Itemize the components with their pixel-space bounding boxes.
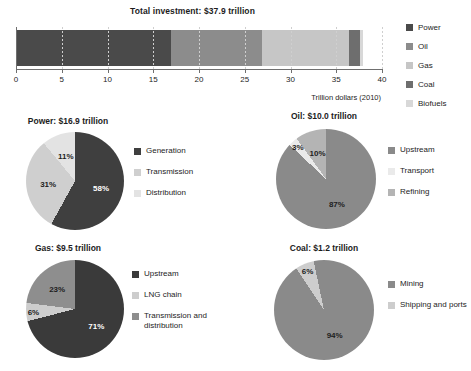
oil-pie <box>276 129 376 229</box>
bar-segment-power <box>16 30 171 66</box>
x-tick <box>153 69 154 73</box>
x-axis-label: Trillion dollars (2010) <box>0 93 381 102</box>
x-tick-label: 35 <box>332 75 341 84</box>
legend-item-coal[interactable]: Coal <box>406 75 461 94</box>
legend-item-oil[interactable]: Oil <box>406 37 461 56</box>
legend-item-refining[interactable]: Refining <box>388 187 468 197</box>
legend-label: Upstream <box>144 269 179 279</box>
legend-item-transmission[interactable]: Transmission <box>134 167 229 177</box>
legend-label: Refining <box>400 187 429 197</box>
x-tick-label: 15 <box>149 75 158 84</box>
oil-pie-title: Oil: $10.0 trillion <box>264 111 384 121</box>
coal-pie-title: Coal: $1.2 trillion <box>264 243 384 253</box>
pie-slice-label: 94% <box>327 331 343 340</box>
gridline <box>153 27 154 69</box>
legend-label: Distribution <box>146 188 186 198</box>
legend-swatch-icon <box>132 313 139 320</box>
legend-item-transmission-and-distribution[interactable]: Transmission and distribution <box>132 311 230 331</box>
gridline <box>108 27 109 69</box>
legend-label: Mining <box>400 279 424 289</box>
legend-item-upstream[interactable]: Upstream <box>132 269 230 279</box>
legend-label: LNG chain <box>144 290 182 300</box>
x-tick <box>108 69 109 73</box>
legend-label: Transmission and distribution <box>144 311 230 331</box>
pie-slice-label: 58% <box>93 183 109 192</box>
legend-swatch-icon <box>406 81 413 88</box>
pie-slice-label: 11% <box>58 151 74 160</box>
legend-item-gas[interactable]: Gas <box>406 56 461 75</box>
legend-item-generation[interactable]: Generation <box>134 146 229 156</box>
gas-pie <box>26 260 124 358</box>
coal-pie-panel: Coal: $1.2 trillion MiningShipping and p… <box>248 243 461 371</box>
legend-item-lng-chain[interactable]: LNG chain <box>132 290 230 300</box>
legend-label: Coal <box>418 80 434 89</box>
oil-pie-panel: Oil: $10.0 trillion UpstreamTransportRef… <box>248 111 461 238</box>
power-pie-legend: GenerationTransmissionDistribution <box>134 146 229 209</box>
bar-legend: PowerOilGasCoalBiofuels <box>406 18 461 113</box>
x-tick-label: 25 <box>240 75 249 84</box>
bar-segment-oil <box>171 30 263 66</box>
legend-item-upstream[interactable]: Upstream <box>388 145 468 155</box>
bar-chart-title: Total investment: $37.9 trillion <box>0 6 385 16</box>
x-tick <box>291 69 292 73</box>
pie-slice-label: 10% <box>309 148 325 157</box>
legend-swatch-icon <box>406 100 413 107</box>
x-tick-label: 5 <box>60 75 64 84</box>
legend-swatch-icon <box>134 169 141 176</box>
legend-item-power[interactable]: Power <box>406 18 461 37</box>
x-tick <box>16 69 17 73</box>
legend-item-distribution[interactable]: Distribution <box>134 188 229 198</box>
power-pie-title: Power: $16.9 trillion <box>8 116 128 126</box>
gridline <box>291 27 292 69</box>
gridline <box>245 27 246 69</box>
x-tick-label: 0 <box>14 75 18 84</box>
legend-swatch-icon <box>388 168 395 175</box>
x-tick <box>245 69 246 73</box>
legend-item-shipping-and-ports[interactable]: Shipping and ports <box>388 300 471 310</box>
bar-segment-biofuels <box>360 30 363 66</box>
legend-label: Upstream <box>400 145 435 155</box>
legend-item-transport[interactable]: Transport <box>388 166 468 176</box>
x-tick-label: 40 <box>378 75 387 84</box>
legend-swatch-icon <box>388 281 395 288</box>
gridline <box>62 27 63 69</box>
gas-pie-panel: Gas: $9.5 trillion UpstreamLNG chainTran… <box>4 243 230 371</box>
legend-swatch-icon <box>134 190 141 197</box>
x-tick <box>199 69 200 73</box>
legend-swatch-icon <box>406 24 413 31</box>
coal-pie-legend: MiningShipping and ports <box>388 279 471 321</box>
legend-swatch-icon <box>388 189 395 196</box>
gridline <box>382 27 383 69</box>
gridline <box>336 27 337 69</box>
legend-label: Generation <box>146 146 186 156</box>
pie-slice-label: 6% <box>28 307 40 316</box>
legend-label: Transmission <box>146 167 193 177</box>
x-tick-label: 20 <box>195 75 204 84</box>
oil-pie-legend: UpstreamTransportRefining <box>388 145 468 208</box>
pie-slice-label: 87% <box>329 200 345 209</box>
legend-label: Oil <box>418 42 428 51</box>
x-tick <box>382 69 383 73</box>
pie-slice-label: 23% <box>49 284 65 293</box>
x-tick-label: 10 <box>103 75 112 84</box>
gas-pie-legend: UpstreamLNG chainTransmission and distri… <box>132 269 230 342</box>
legend-label: Transport <box>400 166 434 176</box>
stacked-bar-panel: Total investment: $37.9 trillion Trillio… <box>0 0 461 112</box>
legend-swatch-icon <box>132 292 139 299</box>
legend-item-mining[interactable]: Mining <box>388 279 471 289</box>
pie-slice-label: 3% <box>292 143 304 152</box>
legend-swatch-icon <box>388 147 395 154</box>
legend-label: Shipping and ports <box>400 300 467 310</box>
legend-swatch-icon <box>134 148 141 155</box>
coal-pie <box>274 260 374 360</box>
x-tick <box>336 69 337 73</box>
legend-label: Biofuels <box>418 99 446 108</box>
legend-swatch-icon <box>406 62 413 69</box>
bar-segment-coal <box>349 30 360 66</box>
legend-swatch-icon <box>132 271 139 278</box>
y-axis-line <box>16 27 17 69</box>
x-tick-label: 30 <box>286 75 295 84</box>
power-pie-panel: Power: $16.9 trillion GenerationTransmis… <box>4 116 230 238</box>
legend-swatch-icon <box>406 43 413 50</box>
